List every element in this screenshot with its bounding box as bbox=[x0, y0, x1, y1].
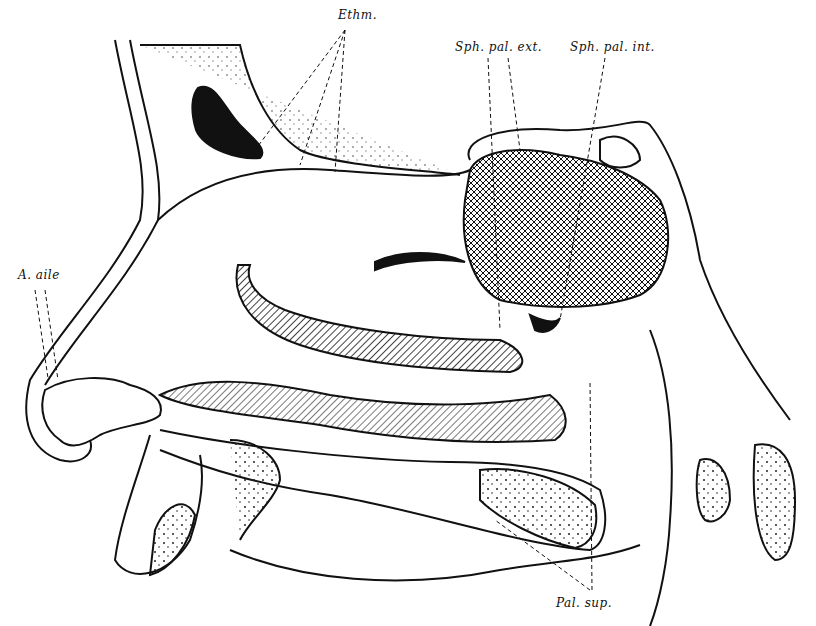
label-a-aile: A. aile bbox=[18, 268, 60, 282]
anatomical-figure: Ethm. Sph. pal. ext. Sph. pal. int. A. a… bbox=[0, 0, 816, 626]
nasal-section-drawing bbox=[0, 0, 816, 626]
label-ethm: Ethm. bbox=[338, 8, 377, 22]
label-sph-pal-ext: Sph. pal. ext. bbox=[455, 40, 542, 54]
label-pal-sup: Pal. sup. bbox=[556, 596, 612, 610]
label-sph-pal-int: Sph. pal. int. bbox=[570, 40, 655, 54]
